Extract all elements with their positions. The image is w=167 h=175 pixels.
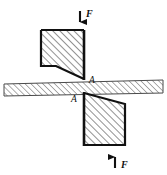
upper-block <box>41 30 84 80</box>
lower-block <box>84 92 125 146</box>
force-label-top: F <box>85 8 93 19</box>
lower-block-fill <box>84 93 125 145</box>
shear-diagram: F F A A <box>0 0 167 175</box>
upper-block-fill <box>41 30 84 79</box>
section-label-bottom: A <box>70 94 77 104</box>
section-label-top: A <box>88 75 95 85</box>
force-label-bottom: F <box>120 159 128 170</box>
figure-container: F F A A <box>0 0 167 175</box>
